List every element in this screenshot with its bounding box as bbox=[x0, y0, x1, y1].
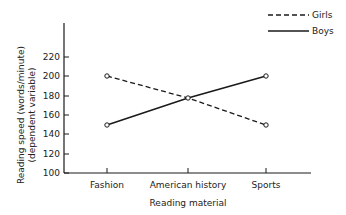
y-axis-title-line1: Reading speed (words/minute) bbox=[16, 46, 26, 184]
y-tick-label: 120 bbox=[43, 149, 60, 159]
y-tick-label: 200 bbox=[43, 71, 60, 81]
x-tick-label: American history bbox=[150, 180, 227, 190]
y-tick-label: 180 bbox=[43, 91, 60, 101]
y-tick-label: 160 bbox=[43, 110, 60, 120]
x-tick-label: Sports bbox=[252, 180, 281, 190]
y-axis-title-line2: (dependent variable) bbox=[27, 68, 37, 163]
point-american-history bbox=[186, 96, 190, 100]
series-boys-line bbox=[107, 76, 266, 125]
x-axis-title: Reading material bbox=[150, 198, 227, 208]
boys-point-sports bbox=[264, 74, 268, 78]
y-ticks bbox=[64, 57, 69, 173]
girls-point-fashion bbox=[105, 74, 109, 78]
y-axis-title: Reading speed (words/minute) (dependent … bbox=[16, 46, 37, 184]
boys-point-fashion bbox=[105, 123, 109, 127]
legend: Girls Boys bbox=[268, 10, 334, 36]
x-tick-labels: Fashion American history Sports bbox=[90, 180, 281, 190]
y-tick-label: 140 bbox=[43, 129, 60, 139]
x-tick-label: Fashion bbox=[90, 180, 124, 190]
y-tick-label: 220 bbox=[43, 52, 60, 62]
x-ticks bbox=[107, 168, 266, 173]
legend-boys-label: Boys bbox=[312, 26, 334, 36]
legend-girls-label: Girls bbox=[312, 10, 333, 20]
y-tick-label: 100 bbox=[43, 168, 60, 178]
girls-point-sports bbox=[264, 123, 268, 127]
line-chart: 100 120 140 160 180 200 220 Fashion Amer… bbox=[0, 0, 346, 215]
y-tick-labels: 100 120 140 160 180 200 220 bbox=[43, 52, 60, 178]
